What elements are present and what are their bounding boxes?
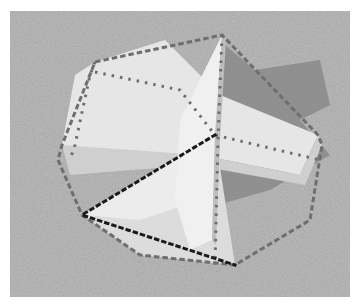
scene-svg (10, 11, 350, 297)
photo (10, 11, 350, 297)
